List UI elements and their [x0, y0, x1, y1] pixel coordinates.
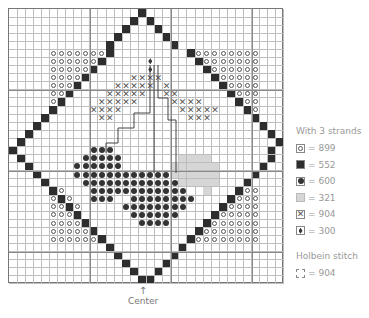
legend-value: = 904: [308, 268, 336, 278]
open-circle-icon: [75, 51, 80, 56]
open-circle-icon: [83, 229, 88, 234]
filled-circle-icon: [115, 155, 121, 161]
open-circle-icon: [67, 59, 72, 64]
filled-circle-icon: [147, 212, 153, 218]
open-circle-icon: [229, 51, 234, 56]
open-circle-icon: [229, 59, 234, 64]
filled-circle-icon: [131, 188, 137, 194]
open-circle-icon: [221, 212, 226, 217]
open-circle-icon: [245, 237, 250, 242]
open-circle-icon: [59, 75, 64, 80]
filled-circle-icon: [155, 220, 161, 226]
open-circle-icon: [229, 221, 234, 226]
grid-major-line: [90, 9, 91, 282]
up-arrow-icon: ↑: [128, 286, 158, 296]
open-circle-icon: [212, 221, 217, 226]
open-circle-icon: [212, 237, 217, 242]
open-circle-icon: [237, 91, 242, 96]
open-circle-icon: [253, 59, 258, 64]
open-circle-icon: [51, 51, 56, 56]
filled-circle-icon: [139, 188, 145, 194]
legend-item: = 899: [296, 140, 369, 157]
open-circle-icon: [59, 59, 64, 64]
filled-circle-icon: [91, 147, 97, 153]
open-circle-icon: [59, 204, 64, 209]
open-circle-icon: [67, 83, 72, 88]
open-circle-icon: [67, 75, 72, 80]
grid-major-line: [9, 252, 282, 253]
open-circle-icon: [51, 91, 56, 96]
filled-circle-icon: [172, 196, 178, 202]
cross-icon: ✕: [211, 106, 219, 114]
cross-icon: ✕: [296, 210, 305, 219]
filled-circle-icon: [107, 180, 113, 186]
open-circle-icon: [237, 204, 242, 209]
open-circle-icon: [59, 221, 64, 226]
filled-circle-icon: [131, 204, 137, 210]
filled-circle-icon: [99, 163, 105, 169]
legend-item: = 300: [296, 223, 369, 240]
filled-circle-icon: [115, 188, 121, 194]
open-circle-icon: [245, 75, 250, 80]
filled-circle-icon: [99, 196, 105, 202]
open-circle-icon: [229, 237, 234, 242]
open-circle-icon: [75, 237, 80, 242]
filled-circle-icon: [163, 220, 169, 226]
cross-icon: ✕: [203, 114, 211, 122]
open-circle-icon: [253, 67, 258, 72]
cross-icon: ✕: [122, 98, 130, 106]
holbein-title: Holbein stitch: [296, 251, 369, 261]
open-circle-icon: [221, 67, 226, 72]
filled-circle-icon: [172, 212, 178, 218]
filled-circle-icon: [91, 188, 97, 194]
filled-circle-icon: [180, 204, 186, 210]
open-circle-icon: [59, 67, 64, 72]
filled-circle-icon: [99, 147, 105, 153]
filled-circle-icon: [147, 204, 153, 210]
filled-circle-icon: [99, 188, 105, 194]
legend-items: = 899= 552= 600= 321✕= 904= 300: [296, 140, 369, 239]
filled-circle-icon: [139, 196, 145, 202]
filled-circle-icon: [123, 204, 129, 210]
open-circle-icon: [253, 91, 258, 96]
open-circle-icon: [237, 212, 242, 217]
filled-circle-icon: [74, 163, 80, 169]
open-circle-icon: [51, 229, 56, 234]
open-circle-icon: [51, 204, 56, 209]
open-circle-icon: [245, 212, 250, 217]
cross-icon: ✕: [155, 74, 163, 82]
open-circle-icon: [221, 229, 226, 234]
filled-circle-icon: [163, 188, 169, 194]
open-circle-icon: [245, 99, 250, 104]
open-circle-icon: [245, 196, 250, 201]
filled-circle-icon: [139, 204, 145, 210]
filled-circle-icon: [155, 180, 161, 186]
open-circle-icon: [237, 237, 242, 242]
open-circle-icon: [75, 229, 80, 234]
open-circle-icon: [237, 59, 242, 64]
diamond-icon: [148, 58, 152, 64]
filled-circle-icon: [131, 212, 137, 218]
filled-circle-icon: [180, 196, 186, 202]
filled-square-icon: [296, 160, 305, 169]
filled-circle-icon: [139, 212, 145, 218]
grid-cell: [276, 276, 285, 285]
filled-circle-icon: [107, 188, 113, 194]
grid-major-line: [9, 90, 282, 91]
open-circle-icon: [59, 51, 64, 56]
filled-circle-icon: [155, 204, 161, 210]
filled-circle-icon: [147, 172, 153, 178]
filled-circle-icon: [99, 155, 105, 161]
filled-circle-icon: [172, 204, 178, 210]
filled-circle-icon: [107, 147, 113, 153]
open-circle-icon: [245, 229, 250, 234]
open-circle-icon: [51, 221, 56, 226]
legend-value: = 904: [308, 209, 336, 219]
cross-icon: ✕: [195, 114, 203, 122]
cross-icon: ✕: [171, 98, 179, 106]
open-circle-icon: [59, 83, 64, 88]
open-circle-icon: [212, 59, 217, 64]
filled-circle-icon: [107, 163, 113, 169]
open-circle-icon: [196, 237, 201, 242]
filled-circle-icon: [107, 155, 113, 161]
